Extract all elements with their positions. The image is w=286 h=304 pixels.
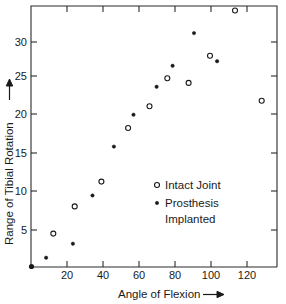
x-axis-arrow-head <box>217 291 224 297</box>
data-point <box>112 145 115 148</box>
frame-border <box>31 6 277 267</box>
x-tick-labels: 20 40 60 80 100 120 <box>61 269 256 281</box>
data-point <box>44 256 47 259</box>
data-point <box>208 53 213 58</box>
y-tick-label-5: 5 <box>21 224 27 236</box>
data-point <box>215 60 218 63</box>
y-axis-ticks <box>31 42 37 230</box>
data-point <box>147 104 152 109</box>
x-axis-title-group: Angle of Flexion <box>118 288 224 300</box>
data-point <box>155 85 158 88</box>
y-tick-label-15: 15 <box>15 147 27 159</box>
data-point <box>71 242 74 245</box>
legend: Intact Joint Prosthesis Implanted <box>155 179 222 225</box>
data-point <box>171 64 174 67</box>
legend-marker-prosthesis <box>155 201 158 204</box>
y-tick-label-25: 25 <box>15 70 27 82</box>
data-point <box>72 204 77 209</box>
legend-label-intact-joint: Intact Joint <box>165 179 221 191</box>
data-point <box>192 31 195 34</box>
y-tick-labels: 5 10 15 20 25 30 <box>15 36 27 236</box>
x-tick-label-20: 20 <box>61 269 73 281</box>
x-tick-label-40: 40 <box>97 269 109 281</box>
scatter-plot-figure: 20 40 60 80 100 120 5 10 <box>0 0 286 304</box>
y-axis-arrow-head <box>6 79 12 86</box>
y-tick-label-30: 30 <box>15 36 27 48</box>
legend-marker-intact-joint <box>155 183 160 188</box>
y-axis-title: Range of Tibial Rotation <box>3 122 15 245</box>
data-point <box>132 113 135 116</box>
x-tick-label-60: 60 <box>133 269 145 281</box>
y-tick-label-20: 20 <box>15 108 27 120</box>
x-tick-label-80: 80 <box>169 269 181 281</box>
series-prosthesis-implanted <box>44 31 218 259</box>
data-point <box>51 231 56 236</box>
y-tick-label-10: 10 <box>15 185 27 197</box>
data-point <box>165 76 170 81</box>
x-axis-ticks <box>67 261 247 267</box>
data-point <box>126 126 131 131</box>
data-point <box>259 98 264 103</box>
y-axis-ticks-right <box>271 42 277 230</box>
data-point <box>99 179 104 184</box>
y-axis-title-group: Range of Tibial Rotation <box>3 79 15 245</box>
x-tick-label-120: 120 <box>238 269 256 281</box>
legend-label-prosthesis: Prosthesis <box>165 197 219 209</box>
plot-canvas: 20 40 60 80 100 120 5 10 <box>0 0 286 304</box>
plot-frame <box>29 6 277 269</box>
data-point <box>186 80 191 85</box>
origin-marker <box>29 264 34 269</box>
legend-label-implanted: Implanted <box>165 213 216 225</box>
data-point <box>233 8 238 13</box>
x-axis-title: Angle of Flexion <box>118 288 200 300</box>
x-axis-ticks-top <box>67 6 247 12</box>
x-tick-label-100: 100 <box>202 269 220 281</box>
data-point <box>91 194 94 197</box>
